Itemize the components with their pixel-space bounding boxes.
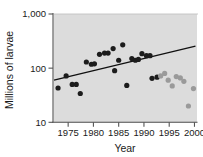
x-tick-label: 1995 bbox=[159, 127, 180, 138]
data-point bbox=[92, 61, 97, 66]
x-tick-label: 1985 bbox=[108, 127, 129, 138]
data-point bbox=[105, 50, 110, 55]
x-tick-label: 1980 bbox=[83, 127, 104, 138]
data-point bbox=[191, 86, 196, 91]
data-point bbox=[112, 68, 117, 73]
data-point bbox=[181, 79, 186, 84]
data-point bbox=[162, 71, 167, 76]
x-axis-title: Year bbox=[114, 142, 136, 154]
data-point bbox=[97, 52, 102, 57]
data-point bbox=[64, 73, 69, 78]
y-tick-label: 1,000 bbox=[22, 8, 46, 19]
x-tick-label: 1975 bbox=[58, 127, 79, 138]
data-point bbox=[139, 51, 144, 56]
chart-figure: 101001,000 197519801985199019952000 Year… bbox=[0, 0, 203, 157]
data-point bbox=[116, 58, 121, 63]
data-point bbox=[78, 91, 83, 96]
data-point bbox=[166, 78, 171, 83]
plot-background bbox=[53, 14, 197, 122]
data-point bbox=[186, 103, 191, 108]
x-tick-group bbox=[68, 122, 194, 127]
data-point bbox=[111, 46, 116, 51]
y-tick-label-group: 101001,000 bbox=[22, 8, 46, 127]
data-point bbox=[136, 57, 141, 62]
x-tick-label: 1990 bbox=[133, 127, 154, 138]
data-point bbox=[147, 53, 152, 58]
data-point bbox=[124, 83, 129, 88]
x-tick-label-group: 197519801985199019952000 bbox=[58, 127, 203, 138]
y-tick-label: 100 bbox=[30, 63, 46, 74]
scatter-plot: 101001,000 197519801985199019952000 Year… bbox=[0, 0, 203, 157]
data-point bbox=[120, 42, 125, 47]
data-point bbox=[84, 59, 89, 64]
y-tick-label: 10 bbox=[35, 117, 46, 128]
data-point bbox=[149, 76, 154, 81]
data-point bbox=[55, 85, 60, 90]
y-axis-title: Millions of larvae bbox=[3, 31, 15, 109]
x-tick-label: 2000 bbox=[184, 127, 203, 138]
data-point bbox=[170, 83, 175, 88]
data-point bbox=[74, 82, 79, 87]
